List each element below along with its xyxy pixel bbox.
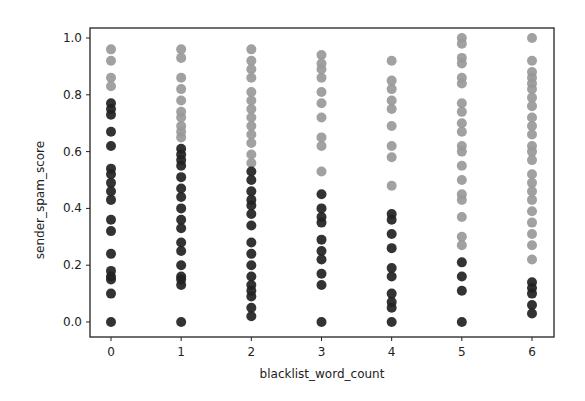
- data-point: [176, 223, 186, 233]
- data-point: [106, 81, 116, 91]
- data-point: [176, 84, 186, 94]
- data-point: [106, 169, 116, 179]
- data-point: [457, 212, 467, 222]
- data-point: [317, 255, 327, 265]
- data-point: [457, 161, 467, 171]
- data-point: [527, 240, 537, 250]
- data-point: [246, 87, 256, 97]
- data-point: [527, 33, 537, 43]
- data-point: [246, 158, 256, 168]
- data-point: [527, 113, 537, 123]
- data-point: [527, 229, 537, 239]
- data-point: [176, 192, 186, 202]
- data-point: [387, 152, 397, 162]
- data-point: [246, 130, 256, 140]
- x-tick-label: 4: [388, 345, 396, 359]
- data-point: [387, 76, 397, 86]
- y-tick-label: 0.8: [63, 88, 82, 102]
- data-point: [246, 291, 256, 301]
- data-point: [527, 255, 537, 265]
- data-point: [246, 138, 256, 148]
- data-points: [106, 33, 537, 327]
- data-point: [457, 39, 467, 49]
- data-point: [106, 127, 116, 137]
- data-point: [527, 206, 537, 216]
- data-point: [457, 118, 467, 128]
- data-point: [176, 203, 186, 213]
- data-point: [457, 317, 467, 327]
- data-point: [317, 73, 327, 83]
- data-point: [457, 195, 467, 205]
- data-point: [106, 215, 116, 225]
- data-point: [317, 189, 327, 199]
- data-point: [527, 178, 537, 188]
- x-tick-label: 0: [107, 345, 115, 359]
- data-point: [106, 110, 116, 120]
- data-point: [387, 289, 397, 299]
- data-point: [106, 178, 116, 188]
- data-point: [457, 286, 467, 296]
- data-point: [527, 147, 537, 157]
- data-point: [387, 263, 397, 273]
- data-point: [246, 149, 256, 159]
- x-tick-label: 5: [458, 345, 466, 359]
- data-point: [246, 121, 256, 131]
- data-point: [246, 64, 256, 74]
- data-point: [387, 243, 397, 253]
- data-point: [246, 73, 256, 83]
- data-point: [176, 317, 186, 327]
- y-tick-label: 0.6: [63, 145, 82, 159]
- data-point: [176, 260, 186, 270]
- data-point: [246, 272, 256, 282]
- data-point: [317, 317, 327, 327]
- data-point: [457, 272, 467, 282]
- data-point: [246, 166, 256, 176]
- data-point: [106, 186, 116, 196]
- data-point: [527, 56, 537, 66]
- data-point: [387, 272, 397, 282]
- y-tick-label: 0.0: [63, 315, 82, 329]
- x-axis-ticks: 0123456: [107, 337, 536, 359]
- data-point: [387, 121, 397, 131]
- data-point: [457, 232, 467, 242]
- data-point: [457, 98, 467, 108]
- data-point: [176, 113, 186, 123]
- data-point: [176, 132, 186, 142]
- data-point: [106, 141, 116, 151]
- data-point: [246, 249, 256, 259]
- data-point: [246, 175, 256, 185]
- x-tick-label: 2: [248, 345, 256, 359]
- data-point: [387, 84, 397, 94]
- data-point: [317, 132, 327, 142]
- data-point: [246, 104, 256, 114]
- data-point: [317, 218, 327, 228]
- data-point: [106, 44, 116, 54]
- data-point: [527, 84, 537, 94]
- data-point: [176, 280, 186, 290]
- data-point: [246, 260, 256, 270]
- data-point: [457, 107, 467, 117]
- data-point: [317, 203, 327, 213]
- data-point: [387, 317, 397, 327]
- data-point: [387, 56, 397, 66]
- data-point: [387, 229, 397, 239]
- data-point: [527, 101, 537, 111]
- data-point: [176, 44, 186, 54]
- data-point: [527, 308, 537, 318]
- data-point: [527, 155, 537, 165]
- data-point: [527, 186, 537, 196]
- data-point: [246, 220, 256, 230]
- data-point: [317, 280, 327, 290]
- data-point: [246, 186, 256, 196]
- x-tick-label: 3: [318, 345, 326, 359]
- data-point: [106, 195, 116, 205]
- data-point: [317, 235, 327, 245]
- data-point: [246, 303, 256, 313]
- y-tick-label: 0.4: [63, 201, 82, 215]
- data-point: [176, 161, 186, 171]
- data-point: [246, 311, 256, 321]
- data-point: [457, 127, 467, 137]
- data-point: [387, 104, 397, 114]
- data-point: [106, 56, 116, 66]
- data-point: [527, 289, 537, 299]
